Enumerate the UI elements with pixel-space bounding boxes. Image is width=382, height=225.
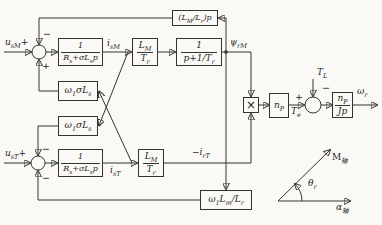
- block-stator-tf-t: 1 Rs+σLsp: [58, 149, 103, 177]
- multiplier-block: ×: [243, 97, 259, 113]
- block-diagram: usM+ usT+ − + − − + − 1 Rs+σLsp LM Tr 1 …: [0, 0, 382, 225]
- block-stator-tf-m-den: Rs+σLsp: [61, 53, 100, 62]
- signal-ism-to-w2: [99, 52, 128, 126]
- block-flux-derivative-feedback: (LM/Lr)p: [172, 10, 218, 26]
- block-omega-sigma-ls-upper: ω1σLs: [58, 81, 98, 101]
- tl-label: TL: [317, 68, 327, 77]
- block-omega-sigma-ls-upper-label: ω1σLs: [65, 86, 92, 95]
- block-omega-lm-lr-label: ω1Lm/Lr: [208, 195, 244, 204]
- theta-label: θr: [308, 179, 317, 188]
- usm-input-label: usM+: [5, 38, 28, 47]
- psi-rm-label: ψrM: [230, 38, 247, 47]
- omega-r-label: ωr: [357, 87, 367, 96]
- sum-t-bottom-sign: −: [42, 173, 50, 183]
- block-stator-tf-t-den: Rs+σLsp: [61, 164, 100, 173]
- block-lm-tr-t-num: LM: [143, 152, 160, 163]
- sum-m-top-sign: −: [43, 29, 51, 39]
- m-axis-label: M轴: [332, 153, 347, 162]
- block-np-label: nP: [274, 101, 284, 110]
- block-np-jp-num: nP: [335, 94, 349, 105]
- ist-label: isT: [110, 166, 121, 175]
- block-omega-sigma-ls-lower: ω1σLs: [58, 116, 98, 136]
- signal-ist-to-w1: [99, 92, 132, 164]
- block-lm-tr-m: LM Tr: [132, 38, 158, 66]
- block-lm-tr-m-den: Tr: [137, 53, 154, 63]
- ism-label: isM: [107, 39, 120, 48]
- sum-junction-t: [31, 156, 45, 170]
- block-rotor-lag: 1 p+1/Tr: [176, 38, 222, 66]
- block-omega-sigma-ls-lower-label: ω1σLs: [65, 121, 92, 130]
- te-label: Te: [291, 107, 301, 116]
- sum-junction-torque: [305, 97, 321, 113]
- block-rotor-lag-den: p+1/Tr: [181, 53, 216, 63]
- sum-junction-m: [32, 45, 46, 59]
- block-stator-tf-m-num: 1: [61, 42, 100, 52]
- sum-torque-left-sign: +: [295, 92, 303, 102]
- block-stator-tf-t-num: 1: [61, 153, 100, 163]
- m-axis-arrow: [278, 150, 330, 201]
- theta-angle-arc: [295, 184, 302, 201]
- block-lm-tr-m-num: LM: [137, 41, 154, 52]
- block-np-jp: nP Jp: [332, 92, 353, 118]
- block-flux-derivative-label: (LM/Lr)p: [178, 14, 211, 22]
- neg-irt-label: −irT: [192, 148, 210, 157]
- multiply-icon: ×: [246, 99, 256, 111]
- block-omega-lm-lr: ω1Lm/Lr: [200, 190, 252, 210]
- sum-t-top-sign: −: [42, 144, 50, 154]
- block-np-jp-den: Jp: [335, 106, 349, 116]
- block-lm-tr-t: LM Tr: [138, 149, 164, 177]
- signal-wires: [0, 0, 382, 225]
- sum-torque-top-sign: −: [322, 83, 330, 93]
- alpha-axis-label: α轴: [336, 203, 348, 212]
- ust-input-label: usT+: [5, 149, 26, 158]
- sum-m-bottom-sign: +: [42, 61, 50, 71]
- block-rotor-lag-num: 1: [181, 41, 216, 52]
- block-np: nP: [269, 93, 289, 118]
- block-stator-tf-m: 1 Rs+σLsp: [58, 38, 103, 66]
- block-lm-tr-t-den: Tr: [143, 164, 160, 174]
